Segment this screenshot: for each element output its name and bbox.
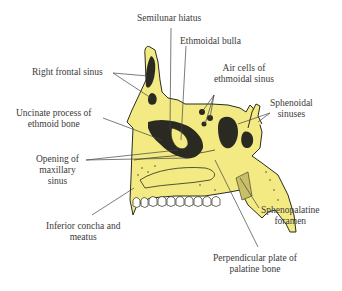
label-opening-line1: Opening of bbox=[36, 154, 79, 165]
label-sphenopalatine-foramen: Sphenopalatine foramen bbox=[261, 205, 320, 227]
label-inferior-concha: Inferior concha and meatus bbox=[46, 221, 120, 243]
label-sphenopalatine-line1: Sphenopalatine bbox=[261, 205, 320, 216]
nasal-wall-illustration bbox=[0, 0, 342, 291]
label-perpendicular-line2: palatine bone bbox=[213, 264, 297, 275]
label-opening-line3: sinus bbox=[36, 176, 79, 187]
label-semilunar-hiatus: Semilunar hiatus bbox=[137, 13, 201, 24]
label-air-cells-line1: Air cells of bbox=[214, 63, 274, 74]
label-sphenoidal-sinuses: Sphenoidal sinuses bbox=[270, 98, 313, 120]
label-air-cells: Air cells of ethmoidal sinus bbox=[214, 63, 274, 85]
label-sphenoidal-line2: sinuses bbox=[270, 109, 313, 120]
leader-inferior bbox=[92, 188, 134, 215]
label-perpendicular-plate: Perpendicular plate of palatine bone bbox=[213, 253, 297, 275]
label-perpendicular-line1: Perpendicular plate of bbox=[213, 253, 297, 264]
label-uncinate-process: Uncinate process of ethmoid bone bbox=[16, 108, 91, 130]
label-right-frontal-sinus: Right frontal sinus bbox=[32, 67, 103, 78]
leader-sphen-2 bbox=[258, 113, 270, 122]
label-sphenopalatine-line2: foramen bbox=[261, 216, 320, 227]
label-sphenoidal-line1: Sphenoidal bbox=[270, 98, 313, 109]
label-opening-line2: maxillary bbox=[36, 165, 79, 176]
label-inferior-line2: meatus bbox=[46, 232, 120, 243]
label-ethmoidal-bulla: Ethmoidal bulla bbox=[180, 36, 241, 47]
leader-frontal-1 bbox=[113, 73, 148, 76]
label-uncinate-line1: Uncinate process of bbox=[16, 108, 91, 119]
label-opening-maxillary-sinus: Opening of maxillary sinus bbox=[36, 154, 79, 187]
label-inferior-line1: Inferior concha and bbox=[46, 221, 120, 232]
label-air-cells-line2: ethmoidal sinus bbox=[214, 74, 274, 85]
anatomy-diagram: Semilunar hiatus Ethmoidal bulla Right f… bbox=[0, 0, 342, 291]
label-uncinate-line2: ethmoid bone bbox=[16, 119, 91, 130]
teeth bbox=[133, 197, 220, 208]
